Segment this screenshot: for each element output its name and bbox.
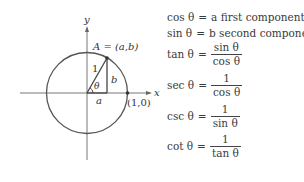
- point-A-label: A = (a,b): [92, 41, 138, 52]
- hypotenuse-label: 1: [92, 63, 98, 74]
- y-axis-label: y: [83, 14, 90, 25]
- equals-sign: =: [198, 49, 207, 60]
- vertical-side-label: b: [111, 74, 117, 85]
- formula-lhs: tan θ: [167, 49, 194, 60]
- angle-label: θ: [94, 81, 100, 91]
- x-axis-arrow-icon: [146, 91, 152, 95]
- equals-sign: =: [196, 28, 205, 39]
- y-axis-arrow-icon: [85, 26, 89, 32]
- formula-tan: tan θ = sin θ cos θ: [167, 42, 242, 66]
- formula-csc: csc θ = 1 sin θ: [167, 104, 240, 128]
- equals-sign: =: [197, 141, 206, 152]
- formula-rhs: a first component: [211, 12, 304, 23]
- formula-sin: sin θ = b second component: [167, 28, 304, 39]
- equals-sign: =: [198, 12, 207, 23]
- equals-sign: =: [198, 111, 207, 122]
- denominator: tan θ: [210, 146, 241, 159]
- point-1-0-label: (1,0): [127, 97, 151, 108]
- formula-cos: cos θ = a first component: [167, 12, 304, 23]
- numerator: 1: [220, 104, 231, 116]
- equals-sign: =: [198, 80, 207, 91]
- formula-lhs: sin θ: [167, 28, 192, 39]
- formula-lhs: cos θ: [167, 12, 194, 23]
- angle-arc: [90, 88, 93, 93]
- horizontal-side-label: a: [96, 95, 102, 106]
- formula-cot: cot θ = 1 tan θ: [167, 134, 241, 158]
- formula-sec: sec θ = 1 cos θ: [167, 73, 242, 97]
- formula-lhs: csc θ: [167, 111, 194, 122]
- denominator: cos θ: [211, 54, 242, 67]
- formula-rhs: b second component: [209, 28, 304, 39]
- numerator: 1: [221, 73, 232, 85]
- formula-lhs: cot θ: [167, 141, 193, 152]
- point-1-0: [126, 91, 130, 95]
- denominator: sin θ: [211, 116, 240, 129]
- fraction: sin θ cos θ: [211, 42, 242, 66]
- x-axis-label: x: [154, 87, 160, 98]
- numerator: sin θ: [212, 42, 241, 54]
- point-A: [105, 56, 109, 60]
- fraction: 1 tan θ: [210, 134, 241, 158]
- denominator: cos θ: [211, 85, 242, 98]
- fraction: 1 sin θ: [211, 104, 240, 128]
- fraction: 1 cos θ: [211, 73, 242, 97]
- formula-lhs: sec θ: [167, 80, 194, 91]
- numerator: 1: [220, 134, 231, 146]
